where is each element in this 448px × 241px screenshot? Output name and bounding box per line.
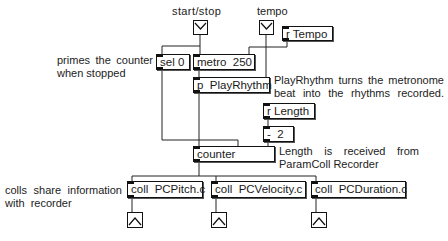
- duration-output-button[interactable]: [311, 212, 327, 228]
- coll-pcpitch-object[interactable]: coll PCPitch.c: [127, 181, 203, 198]
- caret-up-icon: [212, 213, 226, 227]
- tempo-button[interactable]: [259, 20, 274, 35]
- receive-length-object[interactable]: r Length: [263, 103, 315, 119]
- envelope-down-icon: [260, 21, 273, 34]
- playrhythm-comment: PlayRhythm turns the metronome beat into…: [274, 74, 444, 100]
- playrhythm-subpatch[interactable]: p PlayRhythm: [193, 77, 270, 93]
- counter-object[interactable]: counter: [193, 146, 275, 162]
- caret-up-icon: [312, 213, 326, 227]
- sel-object[interactable]: sel 0: [156, 54, 190, 70]
- caret-up-icon: [128, 213, 142, 227]
- start-stop-label: start/stop: [172, 5, 221, 17]
- primes-comment: primes the counter when stopped: [57, 54, 153, 80]
- coll-pcvelocity-object[interactable]: coll PCVelocity.c: [211, 181, 306, 198]
- minus-object[interactable]: - 2: [263, 126, 294, 142]
- coll-pcduration-object[interactable]: coll PCDuration.c: [311, 181, 406, 198]
- velocity-output-button[interactable]: [211, 212, 227, 228]
- metro-object[interactable]: metro 250: [193, 54, 255, 70]
- length-comment: Length is received from ParamColl Record…: [279, 145, 419, 171]
- start-stop-button[interactable]: [193, 20, 208, 35]
- tempo-label: tempo: [257, 5, 288, 17]
- colls-comment: colls share information with recorder: [5, 184, 122, 210]
- envelope-down-icon: [194, 21, 207, 34]
- pitch-output-button[interactable]: [127, 212, 143, 228]
- receive-tempo-object[interactable]: r Tempo: [282, 26, 333, 41]
